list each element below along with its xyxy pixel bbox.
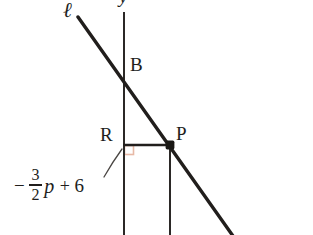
leader-curve xyxy=(104,149,122,177)
fraction-numerator: 3 xyxy=(29,167,42,183)
expression-variable: p xyxy=(44,175,55,198)
point-p-label: P xyxy=(176,124,187,143)
fraction-denominator: 2 xyxy=(29,187,42,203)
expression-minus-sign: − xyxy=(14,175,25,197)
geometry-figure: ℓ y B R P − 3 2 p + 6 xyxy=(0,0,313,235)
point-b-label: B xyxy=(130,55,143,74)
point-p-dot xyxy=(166,141,175,150)
point-r-label: R xyxy=(100,125,113,144)
line-l-label: ℓ xyxy=(63,0,72,21)
fraction-three-halves: 3 2 xyxy=(29,167,42,203)
right-angle-marker xyxy=(125,146,134,155)
y-axis-label: y xyxy=(119,0,127,6)
expression-label: − 3 2 p + 6 xyxy=(14,168,84,204)
expression-constant: 6 xyxy=(74,175,84,197)
expression-operator: + xyxy=(60,176,71,197)
